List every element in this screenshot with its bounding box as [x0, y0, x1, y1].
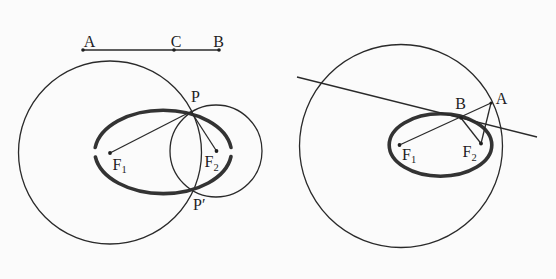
label-f2: F2: [463, 143, 477, 163]
label-a: A: [496, 90, 508, 107]
label-f1-subscript: 1: [411, 154, 416, 165]
tangent-line-at-b: [297, 77, 537, 137]
label-f2-subscript: 2: [213, 162, 218, 173]
point-a: [489, 101, 492, 104]
label-f2-subscript: 2: [471, 152, 476, 163]
focus-f1-point: [398, 143, 402, 147]
point-b: [459, 116, 463, 120]
label-f1-base: F: [113, 156, 122, 173]
left-figure: A C B P P′ F1 F2: [19, 33, 263, 245]
label-f2-base: F: [463, 143, 472, 160]
label-f2: F2: [205, 153, 219, 173]
label-p: P: [191, 88, 200, 105]
segment-label-b: B: [213, 33, 224, 50]
label-f1: F1: [402, 146, 416, 165]
label-b: B: [455, 95, 466, 112]
right-figure: B A F1 F2: [297, 45, 537, 248]
focus-f2-point: [479, 142, 483, 146]
label-p-prime: P′: [193, 196, 205, 213]
label-f1: F1: [113, 156, 127, 175]
segment-label-a: A: [84, 33, 96, 50]
label-f1-subscript: 1: [121, 164, 126, 175]
segment-label-c: C: [171, 33, 182, 50]
ellipse-construction-diagram: A C B P P′ F1 F2: [0, 0, 556, 279]
label-f2-base: F: [205, 153, 214, 170]
focus-f2-point: [215, 149, 219, 153]
focus-f1-point: [108, 151, 112, 155]
label-f1-base: F: [402, 146, 411, 163]
segment-acb: A C B: [81, 33, 224, 52]
